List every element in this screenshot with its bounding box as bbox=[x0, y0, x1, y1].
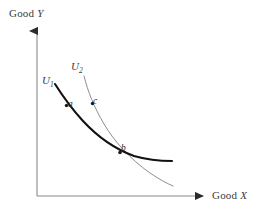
curve-label-u2-base: U bbox=[71, 60, 79, 72]
curve-label-u1: U1 bbox=[42, 74, 54, 89]
curve-label-u2: U2 bbox=[71, 60, 83, 75]
y-axis-label: Good Y bbox=[9, 7, 44, 19]
y-axis-label-prefix: Good bbox=[9, 7, 37, 19]
figure-canvas bbox=[0, 0, 262, 215]
y-axis-label-variable: Y bbox=[37, 7, 43, 19]
curve-label-u1-base: U bbox=[42, 74, 50, 86]
x-axis-label: Good X bbox=[212, 189, 247, 201]
curve-u1 bbox=[55, 84, 172, 161]
x-axis-label-variable: X bbox=[240, 189, 247, 201]
point-label-a: a bbox=[68, 99, 73, 109]
x-axis-label-prefix: Good bbox=[212, 189, 240, 201]
curve-label-u2-sub: 2 bbox=[79, 66, 83, 75]
indifference-curve-figure: Good Y Good X U1 U2 a c b bbox=[0, 0, 262, 215]
point-label-c: c bbox=[93, 96, 97, 106]
curve-label-u1-sub: 1 bbox=[50, 80, 54, 89]
curve-u2 bbox=[84, 76, 173, 186]
point-label-b: b bbox=[121, 143, 126, 153]
